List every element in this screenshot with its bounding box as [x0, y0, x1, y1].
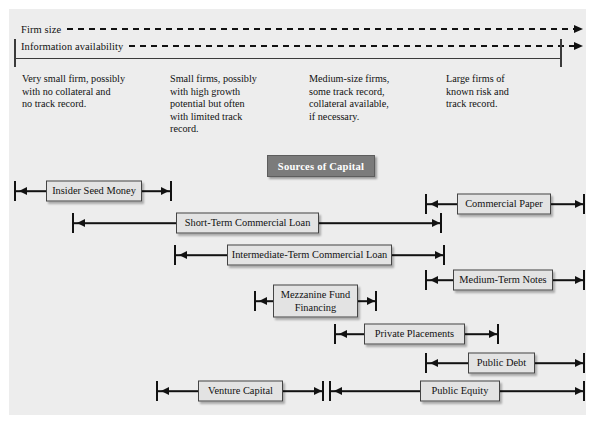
axis-row-information-availability: Information availability [9, 38, 586, 54]
source-node-medium-term-notes[interactable]: Medium-Term Notes [453, 270, 553, 291]
arrow-left-icon [430, 359, 438, 367]
source-node-insider-seed-money[interactable]: Insider Seed Money [46, 181, 142, 202]
source-node-intermediate-term-commercial-loan[interactable]: Intermediate-Term Commercial Loan [227, 245, 392, 266]
arrow-right-icon [367, 297, 375, 305]
range-cap-right [583, 381, 585, 401]
range-cap-right [375, 291, 377, 311]
dashed-arrow-icon-information-availability [129, 45, 574, 47]
arrow-right-icon [314, 387, 322, 395]
range-cap-right [583, 194, 585, 214]
range-cap-right [583, 270, 585, 290]
arrow-right-icon [575, 359, 583, 367]
axis-label-information-availability: Information availability [9, 41, 123, 52]
source-node-commercial-paper[interactable]: Commercial Paper [457, 194, 551, 215]
arrow-right-icon [575, 200, 583, 208]
source-node-public-equity[interactable]: Public Equity [420, 381, 500, 402]
column-description-3: Medium-size firms, some track record, co… [309, 73, 454, 123]
arrow-right-icon [161, 187, 169, 195]
arrow-left-icon [430, 276, 438, 284]
range-cap-right [322, 381, 324, 401]
capital-sources-figure: Firm size Information availability Very … [9, 9, 586, 415]
source-node-private-placements[interactable]: Private Placements [364, 324, 465, 345]
arrow-left-icon [259, 297, 267, 305]
arrow-right-icon [575, 276, 583, 284]
axis-row-firm-size: Firm size [9, 21, 586, 37]
arrow-right-icon [432, 219, 440, 227]
column-description-2: Small firms, possibly with high growth p… [170, 73, 310, 136]
dashed-arrow-icon-firm-size [67, 28, 574, 30]
range-cap-right [440, 213, 442, 233]
arrow-right-icon [435, 251, 443, 259]
range-cap-right [497, 324, 499, 344]
source-node-venture-capital[interactable]: Venture Capital [198, 381, 283, 402]
arrow-left-icon [339, 330, 347, 338]
arrow-left-icon [161, 387, 169, 395]
range-cap-right [583, 353, 585, 373]
arrow-left-icon [77, 219, 85, 227]
sources-of-capital-title: Sources of Capital [267, 155, 375, 177]
arrow-left-icon [19, 187, 27, 195]
arrow-right-icon [489, 330, 497, 338]
axis-label-firm-size: Firm size [9, 24, 61, 35]
source-node-short-term-commercial-loan[interactable]: Short-Term Commercial Loan [176, 213, 319, 234]
header-rule [14, 58, 562, 59]
source-node-public-debt[interactable]: Public Debt [468, 353, 535, 374]
range-cap-right [443, 245, 445, 265]
source-node-mezzanine-fund-financing[interactable]: Mezzanine Fund Financing [273, 285, 358, 318]
column-description-4: Large firms of known risk and track reco… [446, 73, 576, 111]
arrow-left-icon [430, 200, 438, 208]
arrow-left-icon [179, 251, 187, 259]
arrow-right-icon [575, 387, 583, 395]
column-description-1: Very small firm, possibly with no collat… [22, 73, 172, 111]
header-rule-right-cap [560, 39, 562, 67]
arrow-left-icon [334, 387, 342, 395]
range-cap-right [170, 181, 172, 201]
header-rule-left-cap [14, 39, 16, 67]
